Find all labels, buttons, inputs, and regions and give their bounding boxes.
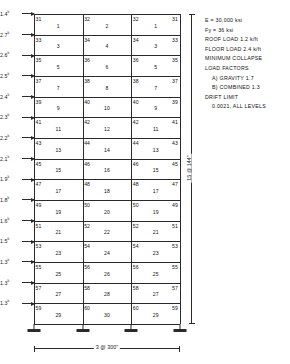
- column-label: 44: [133, 140, 139, 146]
- beam-label: 7: [154, 85, 157, 91]
- beam-line: [34, 324, 180, 325]
- fixed-support: [125, 329, 138, 332]
- beam-line: [34, 14, 180, 15]
- column-label: 57: [36, 285, 42, 291]
- lateral-load-value: 2.1k: [0, 154, 9, 163]
- lateral-load-value: 1.9k: [0, 174, 9, 183]
- lateral-load-value: 2.5k: [0, 71, 9, 80]
- column-label: 43: [36, 140, 42, 146]
- beam-line: [34, 55, 180, 56]
- beam-line: [34, 138, 180, 139]
- lateral-load-arrow: 2.7k: [0, 30, 34, 40]
- beam-line: [34, 179, 180, 180]
- column-label: 43: [172, 140, 178, 146]
- beam-label: 11: [153, 126, 159, 132]
- column-label: 47: [36, 181, 42, 187]
- column-label: 36: [133, 57, 139, 63]
- beam-label: 4: [106, 43, 109, 49]
- beam-line: [34, 200, 180, 201]
- column-label: 38: [133, 78, 139, 84]
- column-label: 34: [133, 37, 139, 43]
- beam-line: [34, 35, 180, 36]
- column-label: 57: [172, 285, 178, 291]
- lateral-load-arrow: 1.4k: [0, 9, 34, 19]
- lateral-load-arrow: 2.6k: [0, 50, 34, 60]
- beam-line: [34, 117, 180, 118]
- column-label: 55: [36, 264, 42, 270]
- column-label: 58: [133, 285, 139, 291]
- beam-label: 25: [55, 271, 61, 277]
- column-label: 41: [36, 119, 42, 125]
- lateral-load-value: 1.3k: [0, 298, 9, 307]
- beam-label: 13: [55, 147, 61, 153]
- column-label: 53: [172, 243, 178, 249]
- column-label: 44: [84, 140, 90, 146]
- arrow-icon: [22, 13, 34, 14]
- lateral-load-arrow: 1.6k: [0, 216, 34, 226]
- frame-diagram: 1213435657879109111211131413151615171817…: [0, 0, 290, 364]
- beam-label: 24: [104, 250, 110, 256]
- arrow-icon: [22, 303, 34, 304]
- column-label: 59: [172, 305, 178, 311]
- column-label: 51: [36, 223, 42, 229]
- column-label: 35: [172, 57, 178, 63]
- design-note-line: DRIFT LIMIT: [205, 93, 289, 103]
- column-label: 46: [133, 161, 139, 167]
- column-label: 45: [172, 161, 178, 167]
- fixed-support: [76, 329, 89, 332]
- column-label: 42: [84, 119, 90, 125]
- beam-label: 15: [55, 167, 61, 173]
- lateral-load-arrow: 1.3k: [0, 257, 34, 267]
- beam-line: [34, 241, 180, 242]
- beam-line: [34, 76, 180, 77]
- design-note-line: 0.0021, ALL LEVELS: [205, 102, 289, 112]
- beam-label: 5: [57, 64, 60, 70]
- beam-label: 26: [104, 271, 110, 277]
- arrow-icon: [22, 199, 34, 200]
- column-label: 36: [84, 57, 90, 63]
- beam-label: 2: [106, 23, 109, 29]
- design-note-line: MINIMUM COLLAPSE: [205, 54, 289, 64]
- lateral-load-arrow: 2.4k: [0, 92, 34, 102]
- beam-label: 16: [104, 167, 110, 173]
- lateral-load-arrow: 1.5k: [0, 236, 34, 246]
- lateral-load-arrow: 2.5k: [0, 71, 34, 81]
- lateral-load-value: 1.6k: [0, 216, 9, 225]
- lateral-load-value: 2.6k: [0, 50, 9, 59]
- lateral-load-arrow: 1.8k: [0, 195, 34, 205]
- column-label: 40: [84, 99, 90, 105]
- beam-label: 30: [104, 312, 110, 318]
- beam-label: 20: [104, 209, 110, 215]
- beam-label: 9: [57, 105, 60, 111]
- design-note-line: LOAD FACTORS: [205, 64, 289, 74]
- column-label: 52: [84, 223, 90, 229]
- beam-label: 27: [55, 291, 61, 297]
- column-label: 46: [84, 161, 90, 167]
- arrow-icon: [22, 261, 34, 262]
- beam-label: 29: [55, 312, 61, 318]
- column-line: [180, 14, 181, 324]
- column-label: 37: [172, 78, 178, 84]
- column-label: 58: [84, 285, 90, 291]
- column-label: 42: [133, 119, 139, 125]
- column-label: 56: [133, 264, 139, 270]
- beam-label: 6: [106, 64, 109, 70]
- lateral-load-arrow: 1.9k: [0, 174, 34, 184]
- story-dimension-label: 15 @ 144": [186, 153, 192, 182]
- column-label: 47: [172, 181, 178, 187]
- column-label: 34: [84, 37, 90, 43]
- beam-label: 17: [153, 188, 159, 194]
- lateral-load-arrow: 2.1k: [0, 154, 34, 164]
- beam-label: 28: [104, 291, 110, 297]
- lateral-load-value: 1.3k: [0, 257, 9, 266]
- arrow-icon: [22, 34, 34, 35]
- design-note-line: B) COMBINED 1.3: [205, 83, 289, 93]
- column-label: 50: [84, 202, 90, 208]
- beam-label: 3: [57, 43, 60, 49]
- beam-label: 21: [55, 229, 61, 235]
- column-label: 45: [36, 161, 42, 167]
- arrow-icon: [22, 220, 34, 221]
- column-label: 51: [172, 223, 178, 229]
- column-label: 39: [36, 99, 42, 105]
- design-note-line: ROOF LOAD 1.2 k/ft: [205, 35, 289, 45]
